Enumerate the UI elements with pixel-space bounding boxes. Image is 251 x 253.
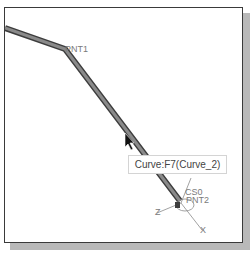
curve-f7[interactable] [5,28,180,201]
axis-label-z: Z [155,208,161,217]
axis-label-x: X [200,226,206,235]
graphics-viewport[interactable]: PNT1 CS0 PNT2 Z X Curve:F7(Curve_2) [4,7,243,243]
point-label-pnt2: PNT2 [186,196,209,205]
point-label-pnt1: PNT1 [65,45,88,54]
model-scene[interactable] [5,8,242,242]
selection-tooltip: Curve:F7(Curve_2) [128,155,227,174]
